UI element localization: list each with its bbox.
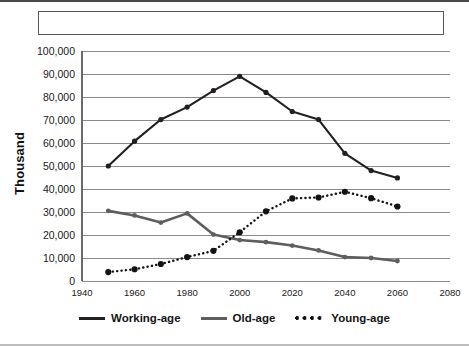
data-point-marker [185, 211, 190, 216]
y-tick-label: 60,000 [43, 137, 75, 149]
data-point-marker [211, 88, 216, 93]
data-point-marker [132, 139, 137, 144]
data-point-marker [263, 90, 268, 95]
y-tick-labels: 010,00020,00030,00040,00050,00060,00070,… [37, 45, 75, 287]
data-point-marker [316, 248, 321, 253]
data-point-marker [394, 203, 400, 209]
data-point-marker [369, 256, 374, 261]
data-point-marker [315, 194, 321, 200]
data-point-marker [316, 117, 321, 122]
data-point-marker [158, 261, 164, 267]
legend-line-icon-old-age [201, 313, 227, 324]
data-point-marker [211, 232, 216, 237]
data-point-marker [210, 248, 216, 254]
y-tick-label: 10,000 [43, 252, 75, 264]
x-tick-label: 1960 [124, 287, 145, 298]
series-line [108, 211, 397, 261]
legend-line-icon-working-age [79, 313, 105, 324]
data-point-marker [184, 254, 190, 260]
data-point-marker [342, 189, 348, 195]
x-tick-label: 2000 [229, 287, 250, 298]
y-tick-label: 90,000 [43, 68, 75, 80]
legend-label-old-age: Old-age [233, 312, 276, 324]
data-point-marker [185, 105, 190, 110]
data-point-marker [263, 208, 269, 214]
legend-item-working-age[interactable]: Working-age [79, 312, 180, 324]
legend-dotted-line-icon-young-age [295, 313, 325, 324]
data-point-marker [368, 195, 374, 201]
series-line [108, 192, 397, 272]
data-point-marker [289, 195, 295, 201]
data-point-marker [106, 208, 111, 213]
data-point-marker [132, 213, 137, 218]
data-series [105, 74, 400, 275]
data-point-marker [237, 238, 242, 243]
y-tick-label: 30,000 [43, 206, 75, 218]
y-tick-label: 0 [69, 275, 75, 287]
data-point-marker [106, 163, 111, 168]
data-point-marker [131, 266, 137, 272]
data-point-marker [158, 117, 163, 122]
y-tick-label: 20,000 [43, 229, 75, 241]
series-line [108, 76, 397, 178]
y-tick-label: 50,000 [43, 160, 75, 172]
legend-item-young-age[interactable]: Young-age [295, 312, 390, 324]
x-tick-label: 1980 [177, 287, 198, 298]
x-tick-label: 1940 [71, 287, 92, 298]
x-tick-label: 2040 [334, 287, 355, 298]
data-point-marker [342, 255, 347, 260]
x-tick-labels: 19401960198020002020204020602080 [71, 287, 460, 298]
series-young-age [105, 189, 400, 275]
gridlines [82, 51, 450, 281]
legend-label-working-age: Working-age [111, 312, 180, 324]
plot-area: 010,00020,00030,00040,00050,00060,00070,… [0, 0, 469, 310]
y-tick-label: 80,000 [43, 91, 75, 103]
chart-figure: Thousand 010,00020,00030,00040,00050,000… [0, 0, 469, 346]
legend-label-young-age: Young-age [331, 312, 390, 324]
data-point-marker [342, 151, 347, 156]
legend-item-old-age[interactable]: Old-age [201, 312, 276, 324]
data-point-marker [290, 109, 295, 114]
data-point-marker [264, 240, 269, 245]
data-point-marker [105, 269, 111, 275]
data-point-marker [158, 220, 163, 225]
x-tick-label: 2080 [439, 287, 460, 298]
data-point-marker [237, 229, 243, 235]
data-point-marker [395, 175, 400, 180]
y-tick-label: 70,000 [43, 114, 75, 126]
y-tick-label: 40,000 [43, 183, 75, 195]
data-point-marker [369, 168, 374, 173]
series-old-age [106, 208, 400, 263]
series-working-age [106, 74, 400, 181]
y-tick-label: 100,000 [37, 45, 75, 57]
data-point-marker [290, 243, 295, 248]
x-tick-label: 2060 [387, 287, 408, 298]
x-tick-label: 2020 [282, 287, 303, 298]
data-point-marker [395, 259, 400, 264]
data-point-marker [237, 74, 242, 79]
chart-legend: Working-age Old-age Young-age [0, 312, 469, 324]
